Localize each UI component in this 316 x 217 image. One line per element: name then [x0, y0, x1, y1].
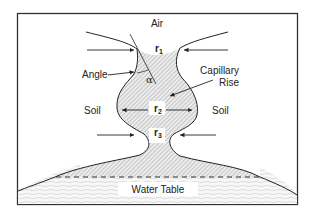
- capillary-diagram: Air r1 Angle α Capillary Rise Soil Soil …: [0, 0, 316, 217]
- alpha-symbol: α: [146, 74, 153, 85]
- air-label: Air: [151, 18, 164, 29]
- angle-label: Angle: [82, 69, 108, 80]
- soil-left-label: Soil: [84, 105, 101, 116]
- capillary-rise-label-line1: Capillary: [200, 65, 239, 76]
- soil-right-label: Soil: [212, 105, 229, 116]
- water-table-label: Water Table: [132, 184, 185, 195]
- capillary-rise-label-line2: Rise: [219, 77, 239, 88]
